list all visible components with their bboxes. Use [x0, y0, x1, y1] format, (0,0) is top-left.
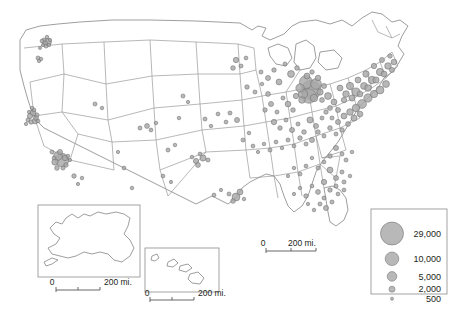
- population-bubble: [371, 63, 376, 68]
- population-bubble: [27, 110, 30, 113]
- population-bubble: [334, 184, 338, 188]
- population-bubble: [307, 117, 313, 123]
- population-bubble: [304, 164, 308, 168]
- population-bubble: [328, 188, 332, 192]
- population-bubble: [373, 77, 379, 83]
- legend-label: 29,000: [413, 229, 441, 239]
- population-bubble: [365, 85, 372, 92]
- population-bubble: [315, 75, 321, 81]
- population-bubble: [36, 119, 40, 123]
- population-bubble: [320, 98, 325, 103]
- population-bubble: [330, 116, 334, 120]
- population-bubble: [45, 35, 49, 39]
- population-bubble: [57, 149, 62, 154]
- population-bubble: [357, 91, 363, 97]
- population-bubble: [281, 96, 285, 100]
- population-bubble: [24, 122, 27, 125]
- population-bubble: [309, 137, 314, 142]
- population-bubble: [145, 124, 150, 129]
- population-bubble: [66, 154, 70, 158]
- population-bubble: [260, 82, 264, 86]
- population-bubble: [48, 38, 51, 41]
- population-bubble: [138, 126, 142, 130]
- population-bubble: [280, 146, 284, 150]
- population-bubble: [196, 163, 201, 168]
- legend-bubble: [391, 297, 394, 300]
- population-bubble: [363, 71, 369, 77]
- population-bubble: [350, 150, 354, 154]
- population-bubble: [278, 126, 282, 130]
- population-bubble: [224, 120, 228, 124]
- legend-label: 500: [426, 294, 441, 304]
- population-bubble: [322, 134, 326, 138]
- alaska-scalebar: 0 200 mi.: [50, 277, 132, 292]
- population-bubble: [341, 113, 347, 119]
- population-bubble: [296, 122, 300, 126]
- population-bubble: [349, 95, 355, 101]
- population-bubble: [322, 196, 326, 200]
- population-bubble: [370, 90, 377, 97]
- population-bubble: [328, 154, 332, 158]
- population-bubble: [266, 92, 271, 97]
- population-bubble: [186, 100, 189, 103]
- population-bubble: [234, 117, 239, 122]
- population-bubble: [26, 118, 30, 122]
- population-bubble: [93, 102, 97, 106]
- population-bubble: [227, 192, 231, 196]
- population-bubble: [245, 85, 249, 89]
- population-bubble: [335, 119, 340, 124]
- population-bubble: [288, 71, 295, 78]
- legend-bubble: [389, 286, 395, 292]
- population-bubble: [343, 91, 350, 98]
- hawaii-scale-zero: 0: [145, 288, 150, 298]
- population-bubble: [316, 166, 320, 170]
- population-bubble: [316, 130, 320, 134]
- population-bubble: [347, 109, 354, 116]
- population-bubble: [298, 172, 302, 176]
- legend-bubble: [381, 222, 404, 245]
- population-map: 0 200 mi. 0 200 mi. 0 200 mi. 29,00010,0…: [0, 0, 455, 315]
- population-bubble: [233, 57, 238, 62]
- population-bubble: [340, 128, 344, 132]
- population-bubble: [381, 71, 387, 77]
- population-bubble: [285, 101, 291, 107]
- population-bubble: [295, 66, 300, 71]
- population-bubble: [237, 189, 243, 195]
- population-bubble: [342, 180, 346, 184]
- population-bubble: [331, 99, 337, 105]
- population-bubble: [334, 132, 338, 136]
- population-bubble: [122, 166, 126, 170]
- population-bubble: [292, 192, 295, 195]
- population-bubble: [262, 142, 266, 146]
- population-bubble: [318, 202, 322, 206]
- population-bubble: [219, 188, 222, 191]
- population-bubble: [333, 175, 338, 180]
- population-bubble: [231, 199, 236, 204]
- population-bubble: [190, 155, 194, 159]
- population-bubble: [47, 43, 51, 47]
- population-bubble: [268, 148, 272, 152]
- population-bubble: [284, 118, 288, 122]
- population-bubble: [310, 184, 314, 188]
- population-bubble: [330, 200, 334, 204]
- population-bubble: [323, 205, 328, 210]
- population-bubble: [310, 94, 318, 102]
- population-bubble: [149, 128, 153, 132]
- map-svg: 0 200 mi. 0 200 mi. 0 200 mi. 29,00010,0…: [0, 0, 455, 315]
- population-bubble: [239, 64, 243, 68]
- population-bubble: [173, 143, 177, 147]
- population-bubble: [130, 186, 134, 190]
- population-bubble: [272, 68, 276, 72]
- population-bubble: [61, 166, 65, 170]
- population-bubble: [274, 140, 278, 144]
- population-bubble: [286, 138, 290, 142]
- population-bubble: [38, 46, 41, 49]
- population-bubble: [169, 180, 172, 183]
- population-bubble: [35, 113, 39, 117]
- population-bubble: [68, 158, 71, 161]
- population-bubble: [76, 182, 79, 185]
- population-bubble: [335, 107, 340, 112]
- population-bubble: [242, 197, 246, 201]
- population-bubble: [342, 188, 346, 192]
- alaska-scale-zero: 0: [50, 277, 55, 287]
